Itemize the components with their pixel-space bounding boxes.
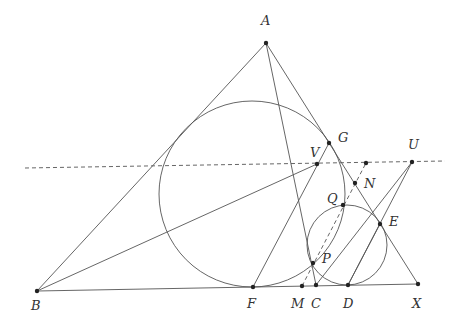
- label-F: F: [247, 297, 256, 310]
- label-Q: Q: [327, 192, 338, 205]
- point-N: [353, 181, 357, 185]
- point-M: [300, 284, 304, 288]
- label-N: N: [364, 177, 375, 190]
- label-C: C: [311, 297, 321, 310]
- point-E: [378, 222, 382, 226]
- label-P: P: [322, 252, 331, 265]
- geometry-diagram: ABFMCDXGVUNQEP: [0, 0, 467, 327]
- diagram-canvas: [0, 0, 467, 327]
- point-Q: [341, 203, 345, 207]
- dashed-line-0: [25, 161, 445, 168]
- point-C: [314, 283, 318, 287]
- segment-AX: [266, 43, 418, 284]
- label-U: U: [408, 138, 419, 151]
- point-U: [410, 160, 414, 164]
- segment-AB: [37, 43, 266, 291]
- label-X: X: [412, 297, 421, 310]
- point-A: [264, 41, 268, 45]
- label-M: M: [291, 297, 304, 310]
- segment-BX: [37, 284, 418, 291]
- point-P: [311, 261, 315, 265]
- point-F: [251, 285, 255, 289]
- label-V: V: [310, 146, 319, 159]
- point-B: [35, 289, 39, 293]
- segment-BV: [37, 164, 317, 291]
- label-D: D: [343, 297, 353, 310]
- point-V: [315, 162, 319, 166]
- point-D: [346, 283, 350, 287]
- label-B: B: [31, 299, 41, 312]
- label-G: G: [338, 131, 348, 144]
- point-X: [416, 282, 420, 286]
- segment-DE: [348, 224, 380, 285]
- point-unnamed: [364, 161, 368, 165]
- point-G: [327, 141, 331, 145]
- label-E: E: [389, 215, 399, 228]
- label-A: A: [261, 14, 270, 27]
